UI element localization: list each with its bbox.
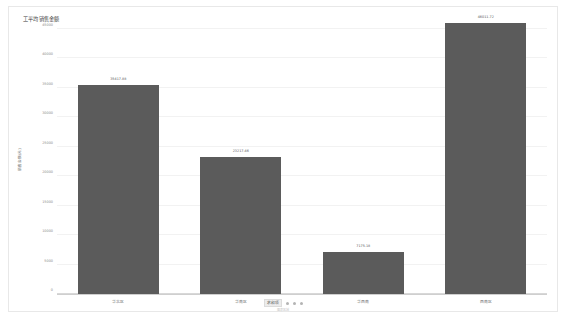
y-axis-tick-label: 5000: [44, 259, 53, 263]
legend-marker-icon: [293, 302, 296, 305]
bar-group[interactable]: 7175.18华西南: [302, 29, 425, 294]
plot-area: 0500010000150002000025000300003500040000…: [57, 29, 547, 294]
y-axis-tick-label: 35000: [42, 82, 53, 86]
bar[interactable]: [200, 157, 281, 294]
bar-group[interactable]: 35417.88华北区: [57, 29, 180, 294]
y-axis-tick-label: 0: [51, 288, 53, 292]
bar-group[interactable]: 23217.46华南区: [180, 29, 303, 294]
bar[interactable]: [78, 85, 159, 294]
bar[interactable]: [323, 252, 404, 294]
y-axis-title: 销售金额(元): [18, 125, 23, 195]
chart-card: 工平均销售金额 销售金额(元) 050001000015000200002500…: [8, 6, 558, 312]
y-axis-tick-label: 10000: [42, 229, 53, 233]
bar-value-label: 46011.72: [478, 15, 494, 19]
y-axis-tick-label: 40000: [42, 52, 53, 56]
chart-area-caption: 图表区域: [9, 307, 557, 312]
y-axis-tick-label: 20000: [42, 170, 53, 174]
bar-value-label: 23217.46: [233, 149, 249, 153]
chart-title: 工平均销售金额: [23, 15, 59, 23]
bars-layer: 35417.88华北区23217.46华南区7175.18华西南46011.72…: [57, 29, 547, 294]
legend-marker-icon: [300, 302, 303, 305]
y-axis-tick-label: 15000: [42, 200, 53, 204]
bar-group[interactable]: 46011.72西南区: [425, 29, 548, 294]
bar[interactable]: [445, 23, 526, 294]
legend-item-series[interactable]: 求和项: [264, 299, 282, 307]
chart-legend[interactable]: 求和项: [9, 299, 557, 307]
bar-value-label: 35417.88: [110, 77, 126, 81]
x-axis-line: [57, 294, 547, 295]
y-axis-tick-label: 45000: [42, 23, 53, 27]
y-axis-tick-label: 25000: [42, 141, 53, 145]
bar-value-label: 7175.18: [356, 244, 370, 248]
legend-marker-icon: [286, 302, 289, 305]
y-axis-tick-label: 30000: [42, 111, 53, 115]
